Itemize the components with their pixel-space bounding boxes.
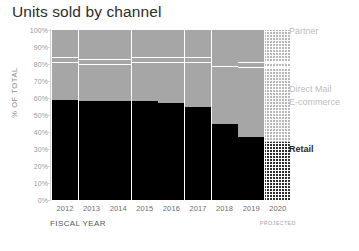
bar-segment-retail-2015[interactable] bbox=[132, 101, 158, 200]
x-tick-label-2013: 2013 bbox=[77, 204, 107, 213]
bar-2016[interactable] bbox=[158, 30, 184, 200]
chart-title: Units sold by channel bbox=[12, 3, 161, 21]
bar-segment-e-commerce-2020[interactable] bbox=[265, 67, 291, 142]
legend-item-retail: Retail bbox=[289, 145, 314, 154]
bar-segment-e-commerce-2014[interactable] bbox=[105, 64, 131, 101]
y-axis-ticks: 100%90%80%70%60%50%40%30%20%10%0% bbox=[0, 30, 48, 200]
bar-segment-retail-2012[interactable] bbox=[52, 100, 78, 200]
bar-2017[interactable] bbox=[185, 30, 211, 200]
y-tick-label: 80% bbox=[2, 61, 48, 68]
bar-segment-retail-2013[interactable] bbox=[79, 101, 105, 200]
bar-segment-partner-2013[interactable] bbox=[79, 30, 105, 59]
y-tick-label: 90% bbox=[2, 44, 48, 51]
bar-segment-retail-2017[interactable] bbox=[185, 107, 211, 201]
x-tick-label-2018: 2018 bbox=[210, 204, 240, 213]
bar-segment-e-commerce-2016[interactable] bbox=[158, 62, 184, 103]
x-tick-label-2017: 2017 bbox=[183, 204, 213, 213]
bar-segment-e-commerce-2018[interactable] bbox=[212, 66, 238, 124]
bar-segment-partner-2018[interactable] bbox=[212, 30, 238, 61]
bar-segment-partner-2016[interactable] bbox=[158, 30, 184, 57]
x-tick-label-2014: 2014 bbox=[103, 204, 133, 213]
bar-segment-retail-2014[interactable] bbox=[105, 101, 131, 200]
bar-segment-e-commerce-2013[interactable] bbox=[79, 64, 105, 101]
y-tick-label: 70% bbox=[2, 78, 48, 85]
bar-2018[interactable] bbox=[212, 30, 238, 200]
x-tick-label-2019: 2019 bbox=[236, 204, 266, 213]
bar-2015[interactable] bbox=[132, 30, 158, 200]
y-tick-label: 10% bbox=[2, 180, 48, 187]
y-tick-label: 0% bbox=[2, 197, 48, 204]
bar-segment-partner-2015[interactable] bbox=[132, 30, 158, 57]
y-tick-label: 20% bbox=[2, 163, 48, 170]
bar-2012[interactable] bbox=[52, 30, 78, 200]
bar-2014[interactable] bbox=[105, 30, 131, 200]
y-tick-label: 40% bbox=[2, 129, 48, 136]
y-axis-line bbox=[50, 29, 51, 201]
bar-2019[interactable] bbox=[238, 30, 264, 200]
bar-segment-partner-2019[interactable] bbox=[238, 30, 264, 62]
bar-segment-e-commerce-2015[interactable] bbox=[132, 62, 158, 101]
bar-segment-partner-2014[interactable] bbox=[105, 30, 131, 59]
bar-segment-retail-2018[interactable] bbox=[212, 124, 238, 201]
bar-segment-e-commerce-2017[interactable] bbox=[185, 62, 211, 106]
bar-segment-retail-2019[interactable] bbox=[238, 137, 264, 200]
legend-item-ecommerce: E-commerce bbox=[289, 98, 340, 107]
x-tick-label-2012: 2012 bbox=[50, 204, 80, 213]
y-tick-label: 30% bbox=[2, 146, 48, 153]
plot-area bbox=[52, 30, 282, 200]
x-tick-label-2020: 2020 bbox=[263, 204, 293, 213]
y-tick-label: 100% bbox=[2, 27, 48, 34]
projected-note: PROJECTED bbox=[255, 220, 301, 226]
bar-segment-e-commerce-2012[interactable] bbox=[52, 62, 78, 99]
bar-2020[interactable] bbox=[265, 30, 291, 200]
bar-segment-retail-2016[interactable] bbox=[158, 103, 184, 200]
bar-segment-partner-2012[interactable] bbox=[52, 30, 78, 57]
bar-segment-partner-2020[interactable] bbox=[265, 30, 291, 62]
legend-item-direct-mail: Direct Mail bbox=[289, 85, 332, 94]
x-tick-label-2016: 2016 bbox=[156, 204, 186, 213]
x-tick-label-2015: 2015 bbox=[130, 204, 160, 213]
bar-segment-e-commerce-2019[interactable] bbox=[238, 67, 264, 137]
x-axis-title: FISCAL YEAR bbox=[50, 219, 106, 228]
bar-segment-retail-2020[interactable] bbox=[265, 142, 291, 200]
y-tick-label: 50% bbox=[2, 112, 48, 119]
bar-2013[interactable] bbox=[79, 30, 105, 200]
chart-container: Units sold by channel % OF TOTAL 100%90%… bbox=[0, 0, 359, 251]
legend-item-partner: Partner bbox=[289, 27, 319, 36]
bar-segment-partner-2017[interactable] bbox=[185, 30, 211, 57]
y-tick-label: 60% bbox=[2, 95, 48, 102]
